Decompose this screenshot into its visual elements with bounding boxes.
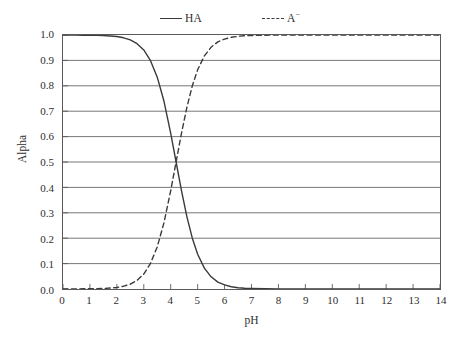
y-tick-label: 0.3 [0, 207, 54, 219]
y-tick-label: 0.7 [0, 105, 54, 117]
y-tick-label: 0.1 [0, 258, 54, 270]
legend-line-dashed-icon [262, 13, 284, 23]
x-tick-label: 6 [222, 294, 228, 306]
x-tick-label: 9 [303, 294, 309, 306]
x-tick-label: 13 [408, 294, 419, 306]
y-axis-tick-labels: 0.00.10.20.30.40.50.60.70.80.91.0 [0, 34, 58, 290]
y-tick-label: 1.0 [0, 28, 54, 40]
x-axis-title: pH [62, 314, 441, 326]
x-tick-label: 8 [276, 294, 282, 306]
y-tick-label: 0.8 [0, 79, 54, 91]
x-tick-label: 1 [86, 294, 92, 306]
y-tick-label: 0.2 [0, 233, 54, 245]
x-tick-label: 4 [168, 294, 174, 306]
x-tick-label: 12 [381, 294, 392, 306]
plot-area [62, 34, 441, 290]
x-tick-label: 10 [327, 294, 338, 306]
series-curve-ha [63, 35, 440, 289]
data-curves [63, 35, 440, 289]
legend-item-a-minus: A− [262, 8, 300, 28]
y-axis-title: Alpha [16, 119, 28, 179]
legend-label-a-minus: A− [287, 12, 300, 24]
x-axis-tick-labels: 01234567891011121314 [62, 294, 441, 312]
series-curve-a-minus [63, 35, 440, 289]
y-tick-label: 0.4 [0, 182, 54, 194]
chart-figure: HA A− 0.00.10.20.30.40.50.60.70.80.91.0 … [0, 0, 460, 345]
legend-label-a-minus-charge: − [296, 10, 301, 19]
x-tick-label: 3 [140, 294, 146, 306]
x-tick-label: 0 [59, 294, 65, 306]
y-tick-label: 0.9 [0, 54, 54, 66]
x-tick-label: 11 [354, 294, 365, 306]
x-tick-label: 14 [436, 294, 447, 306]
legend-label-ha: HA [185, 12, 202, 24]
legend-label-a-minus-text: A [287, 12, 296, 24]
y-tick-label: 0.0 [0, 284, 54, 296]
legend-line-solid-icon [160, 13, 182, 23]
x-tick-label: 7 [249, 294, 255, 306]
chart-legend: HA A− [150, 8, 350, 28]
x-tick-label: 5 [195, 294, 201, 306]
x-tick-label: 2 [113, 294, 119, 306]
legend-item-ha: HA [160, 8, 202, 28]
